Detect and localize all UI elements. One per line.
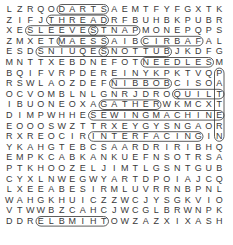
grid-letter[interactable]: O [57,78,68,89]
grid-letter[interactable]: I [78,216,89,227]
grid-letter[interactable]: I [67,131,78,142]
grid-letter[interactable]: K [214,205,225,216]
grid-letter[interactable]: C [193,99,204,110]
grid-letter[interactable]: A [193,121,204,132]
grid-letter[interactable]: D [141,89,152,100]
grid-letter[interactable]: B [57,184,68,195]
grid-letter[interactable]: G [172,195,183,206]
grid-letter[interactable]: R [214,121,225,132]
grid-letter[interactable]: Q [172,89,183,100]
grid-letter[interactable]: Y [151,195,162,206]
grid-letter[interactable]: B [67,152,78,163]
grid-letter[interactable]: O [67,99,78,110]
grid-letter[interactable]: K [172,99,183,110]
grid-letter[interactable]: R [78,131,89,142]
grid-letter[interactable]: T [141,4,152,15]
grid-letter[interactable]: R [130,131,141,142]
grid-letter[interactable]: L [183,57,194,68]
grid-letter[interactable]: G [183,4,194,15]
grid-letter[interactable]: E [78,163,89,174]
grid-letter[interactable]: T [15,205,26,216]
grid-letter[interactable]: W [57,174,68,185]
grid-letter[interactable]: U [193,15,204,26]
grid-letter[interactable]: D [172,57,183,68]
grid-letter[interactable]: H [36,163,47,174]
grid-letter[interactable]: L [120,184,131,195]
grid-letter[interactable]: L [88,89,99,100]
grid-letter[interactable]: O [162,174,173,185]
grid-letter[interactable]: N [46,174,57,185]
grid-letter[interactable]: R [4,131,15,142]
grid-letter[interactable]: S [88,25,99,36]
grid-letter[interactable]: E [99,57,110,68]
grid-letter[interactable]: X [109,121,120,132]
grid-letter[interactable]: E [193,57,204,68]
grid-letter[interactable]: I [204,195,215,206]
grid-letter[interactable]: H [214,216,225,227]
grid-letter[interactable]: L [67,89,78,100]
grid-letter[interactable]: P [183,15,194,26]
grid-letter[interactable]: I [120,36,131,47]
grid-letter[interactable]: F [151,4,162,15]
grid-letter[interactable]: V [4,205,15,216]
grid-letter[interactable]: X [193,4,204,15]
grid-letter[interactable]: K [109,152,120,163]
grid-letter[interactable]: I [25,68,36,79]
grid-letter[interactable]: S [162,152,173,163]
grid-letter[interactable]: A [151,131,162,142]
grid-letter[interactable]: E [67,174,78,185]
grid-letter[interactable]: R [151,89,162,100]
grid-letter[interactable]: B [57,216,68,227]
grid-letter[interactable]: A [109,99,120,110]
grid-letter[interactable]: C [172,78,183,89]
grid-letter[interactable]: B [141,78,152,89]
grid-letter[interactable]: T [120,99,131,110]
grid-letter[interactable]: G [78,174,89,185]
grid-letter[interactable]: J [141,195,152,206]
grid-letter[interactable]: S [99,36,110,47]
grid-letter[interactable]: R [99,184,110,195]
grid-letter[interactable]: A [67,4,78,15]
grid-letter[interactable]: S [99,4,110,15]
grid-letter[interactable]: P [4,163,15,174]
grid-letter[interactable]: B [162,205,173,216]
grid-letter[interactable]: M [109,184,120,195]
grid-letter[interactable]: A [88,152,99,163]
grid-letter[interactable]: M [67,216,78,227]
grid-letter[interactable]: G [141,121,152,132]
grid-letter[interactable]: A [120,25,131,36]
grid-letter[interactable]: N [46,46,57,57]
grid-letter[interactable]: W [162,99,173,110]
grid-letter[interactable]: K [25,163,36,174]
grid-letter[interactable]: U [67,46,78,57]
grid-letter[interactable]: R [172,205,183,216]
grid-letter[interactable]: A [109,142,120,153]
grid-letter[interactable]: K [183,195,194,206]
grid-letter[interactable]: O [15,121,26,132]
grid-letter[interactable]: E [4,152,15,163]
grid-letter[interactable]: C [4,174,15,185]
grid-letter[interactable]: J [172,46,183,57]
grid-letter[interactable]: Z [109,195,120,206]
grid-letter[interactable]: L [36,78,47,89]
grid-letter[interactable]: B [204,15,215,26]
grid-letter[interactable]: W [120,216,131,227]
grid-letter[interactable]: S [214,25,225,36]
grid-letter[interactable]: C [88,142,99,153]
grid-letter[interactable]: V [46,68,57,79]
grid-letter[interactable]: A [67,36,78,47]
grid-letter[interactable]: C [130,195,141,206]
grid-letter[interactable]: G [193,163,204,174]
grid-letter[interactable]: S [25,25,36,36]
grid-letter[interactable]: H [130,99,141,110]
grid-letter[interactable]: Y [4,142,15,153]
grid-letter[interactable]: R [4,78,15,89]
grid-letter[interactable]: E [78,25,89,36]
grid-letter[interactable]: W [36,205,47,216]
grid-letter[interactable]: E [214,110,225,121]
grid-letter[interactable]: N [99,131,110,142]
grid-letter[interactable]: I [88,131,99,142]
grid-letter[interactable]: Q [193,25,204,36]
grid-letter[interactable]: P [214,68,225,79]
grid-letter[interactable]: C [204,174,215,185]
